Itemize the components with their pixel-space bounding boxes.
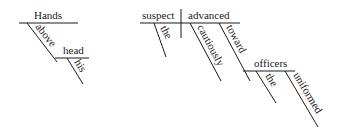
word-uniformed: uniformed (291, 70, 325, 116)
sentence-diagram: Hands above head his suspect advanced th… (0, 0, 342, 140)
word-advanced: advanced (188, 9, 230, 21)
word-hands: Hands (34, 9, 62, 21)
word-above: above (33, 21, 59, 49)
word-head: head (63, 44, 84, 56)
main-clause: suspect advanced the cautiously toward o… (140, 9, 325, 127)
hands-phrase: Hands above head his (19, 9, 89, 84)
word-the-1: the (158, 23, 175, 41)
word-suspect: suspect (142, 9, 174, 21)
word-the-2: the (263, 71, 280, 89)
word-officers: officers (254, 57, 287, 69)
